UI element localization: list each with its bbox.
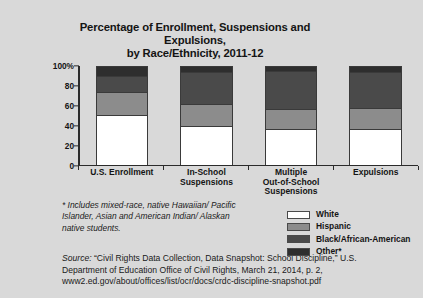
bar-segment bbox=[350, 108, 400, 130]
bar-segment bbox=[181, 104, 231, 126]
bar-segment bbox=[181, 126, 231, 165]
legend-swatch bbox=[287, 223, 310, 231]
y-tickmark bbox=[74, 105, 79, 106]
bar-segment bbox=[266, 129, 316, 164]
legend-item: Black/African-American bbox=[287, 234, 423, 245]
bar-segment bbox=[181, 72, 231, 104]
bar-segment bbox=[266, 109, 316, 130]
x-axis-label: MultipleOut-of-SchoolSuspensions bbox=[249, 168, 334, 197]
legend-item: Hispanic bbox=[287, 221, 423, 232]
y-tickmark bbox=[74, 125, 79, 126]
chart-footer: * Includes mixed-race, native Hawaiian/ … bbox=[40, 200, 423, 298]
chart-title-line-1: Percentage of Enrollment, Suspensions an… bbox=[80, 21, 311, 46]
axis-frame bbox=[78, 66, 418, 166]
bars-container bbox=[80, 66, 419, 165]
x-axis-label: In-SchoolSuspensions bbox=[164, 168, 249, 197]
stacked-bar bbox=[349, 66, 401, 165]
y-tick-label: 40 bbox=[65, 122, 74, 130]
plot-area: 020406080100% bbox=[40, 60, 423, 172]
legend-label: Other* bbox=[316, 247, 342, 256]
legend-swatch bbox=[287, 248, 310, 256]
bar-slot bbox=[164, 66, 249, 165]
y-tick-label: 80 bbox=[65, 82, 74, 90]
bar-segment bbox=[350, 72, 400, 108]
x-axis-label-line: Suspensions bbox=[250, 187, 333, 197]
chart-legend: WhiteHispanicBlack/African-AmericanOther… bbox=[287, 209, 423, 259]
y-tick-label: 20 bbox=[65, 142, 74, 150]
x-tickmark bbox=[418, 166, 419, 171]
x-axis-label-line: Expulsions bbox=[334, 168, 417, 178]
bar-segment bbox=[97, 115, 147, 164]
legend-item: Other* bbox=[287, 246, 423, 257]
y-tickmark bbox=[74, 85, 79, 86]
x-axis-labels: U.S. EnrollmentIn-SchoolSuspensionsMulti… bbox=[80, 168, 419, 197]
bar-segment bbox=[266, 71, 316, 109]
legend-label: Hispanic bbox=[316, 222, 351, 231]
bar-segment bbox=[350, 129, 400, 164]
bar-segment bbox=[97, 67, 147, 76]
bar-slot bbox=[80, 66, 165, 165]
stacked-bar bbox=[180, 66, 232, 165]
x-axis-label-line: Suspensions bbox=[165, 178, 248, 188]
y-tick-label: 60 bbox=[65, 102, 74, 110]
legend-label: Black/African-American bbox=[316, 235, 411, 244]
legend-item: White bbox=[287, 209, 423, 220]
stacked-bar-chart: Percentage of Enrollment, Suspensions an… bbox=[40, 16, 350, 282]
legend-swatch bbox=[287, 211, 310, 219]
chart-title: Percentage of Enrollment, Suspensions an… bbox=[40, 16, 350, 61]
x-axis-label: Expulsions bbox=[333, 168, 418, 197]
x-axis-label: U.S. Enrollment bbox=[80, 168, 165, 197]
x-axis-label-line: U.S. Enrollment bbox=[81, 168, 164, 178]
chart-title-line-2: by Race/Ethnicity, 2011-12 bbox=[54, 47, 336, 60]
legend-swatch bbox=[287, 235, 310, 243]
legend-label: White bbox=[316, 210, 339, 219]
source-line-1: “Civil Rights Data Collection, Data bbox=[92, 253, 224, 263]
source-url: www2.ed.gov/about/offices/list/ocr/docs/… bbox=[62, 276, 321, 286]
y-axis: 020406080100% bbox=[40, 60, 76, 160]
source-line-3: of Education Office of Civil Rights, Mar… bbox=[109, 265, 322, 275]
source-label: Source: bbox=[62, 253, 92, 263]
footnote: * Includes mixed-race, native Hawaiian/ … bbox=[62, 200, 247, 234]
bar-slot bbox=[249, 66, 334, 165]
stacked-bar bbox=[265, 66, 317, 165]
bars-row bbox=[80, 66, 419, 165]
y-tickmark bbox=[74, 65, 79, 66]
stacked-bar bbox=[96, 66, 148, 165]
bar-segment bbox=[97, 76, 147, 92]
y-tick-label: 100% bbox=[53, 62, 74, 70]
y-tickmark bbox=[74, 145, 79, 146]
bar-segment bbox=[97, 92, 147, 116]
footnote-line-1: * Includes mixed-race, native Hawaiian/ bbox=[62, 200, 209, 210]
bar-slot bbox=[333, 66, 418, 165]
